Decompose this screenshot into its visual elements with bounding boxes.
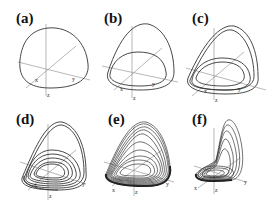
panel-e: (e) x y z <box>90 104 180 208</box>
svg-text:y: y <box>244 179 247 185</box>
svg-text:x: x <box>35 77 38 83</box>
svg-text:y: y <box>72 76 75 82</box>
svg-text:x: x <box>204 88 207 94</box>
svg-text:y: y <box>166 181 169 187</box>
attractor-plot: x y z <box>0 0 90 104</box>
attractor-plot: x y z <box>90 0 180 104</box>
svg-text:z: z <box>215 97 218 103</box>
svg-text:z: z <box>135 189 138 195</box>
attractor-plot: x y z <box>0 104 90 208</box>
attractor-plot: x y z <box>180 104 270 208</box>
panel-c: (c) x y z <box>180 0 270 104</box>
svg-text:x: x <box>34 182 37 188</box>
svg-text:z: z <box>47 92 50 98</box>
svg-text:x: x <box>112 187 115 193</box>
panel-a: (a) x y z <box>0 0 90 104</box>
svg-text:z: z <box>215 187 218 193</box>
attractor-plot: x y z <box>180 0 270 104</box>
svg-text:z: z <box>49 193 52 199</box>
attractor-plot: x y z <box>90 104 180 208</box>
svg-text:y: y <box>82 181 85 187</box>
svg-text:y: y <box>238 86 241 92</box>
panel-b: (b) x y z <box>90 0 180 104</box>
panel-f: (f) x y z <box>180 104 270 208</box>
svg-text:y: y <box>152 81 155 87</box>
svg-text:z: z <box>133 95 136 101</box>
svg-text:x: x <box>120 86 123 92</box>
panel-d: (d) x y z <box>0 104 90 208</box>
svg-text:x: x <box>194 185 197 191</box>
